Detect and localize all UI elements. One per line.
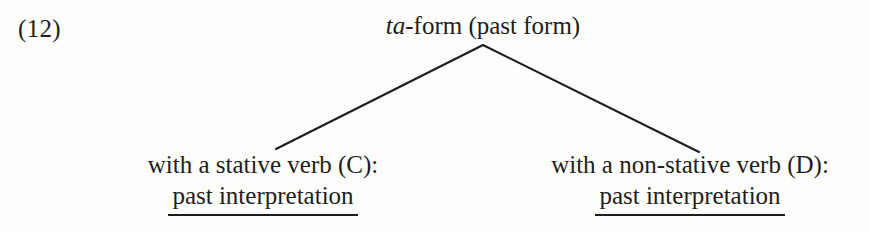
- tree-diagram-figure: (12) ta-form (past form) with a stative …: [0, 0, 869, 232]
- left-branch-line: [276, 45, 483, 149]
- root-node-italic-term: ta: [386, 12, 405, 39]
- leaf-stative-interpretation: past interpretation: [168, 181, 357, 216]
- tree-leaf-stative: with a stative verb (C): past interpreta…: [108, 150, 418, 216]
- leaf-stative-condition: with a stative verb (C):: [108, 150, 418, 180]
- right-branch-line: [483, 45, 699, 152]
- leaf-nonstative-condition: with a non-stative verb (D):: [520, 150, 860, 180]
- example-number: (12): [18, 14, 61, 44]
- leaf-nonstative-interpretation: past interpretation: [595, 181, 784, 216]
- root-node-label: -form (past form): [405, 12, 580, 39]
- tree-root-node: ta-form (past form): [283, 10, 683, 41]
- tree-leaf-nonstative: with a non-stative verb (D): past interp…: [520, 150, 860, 216]
